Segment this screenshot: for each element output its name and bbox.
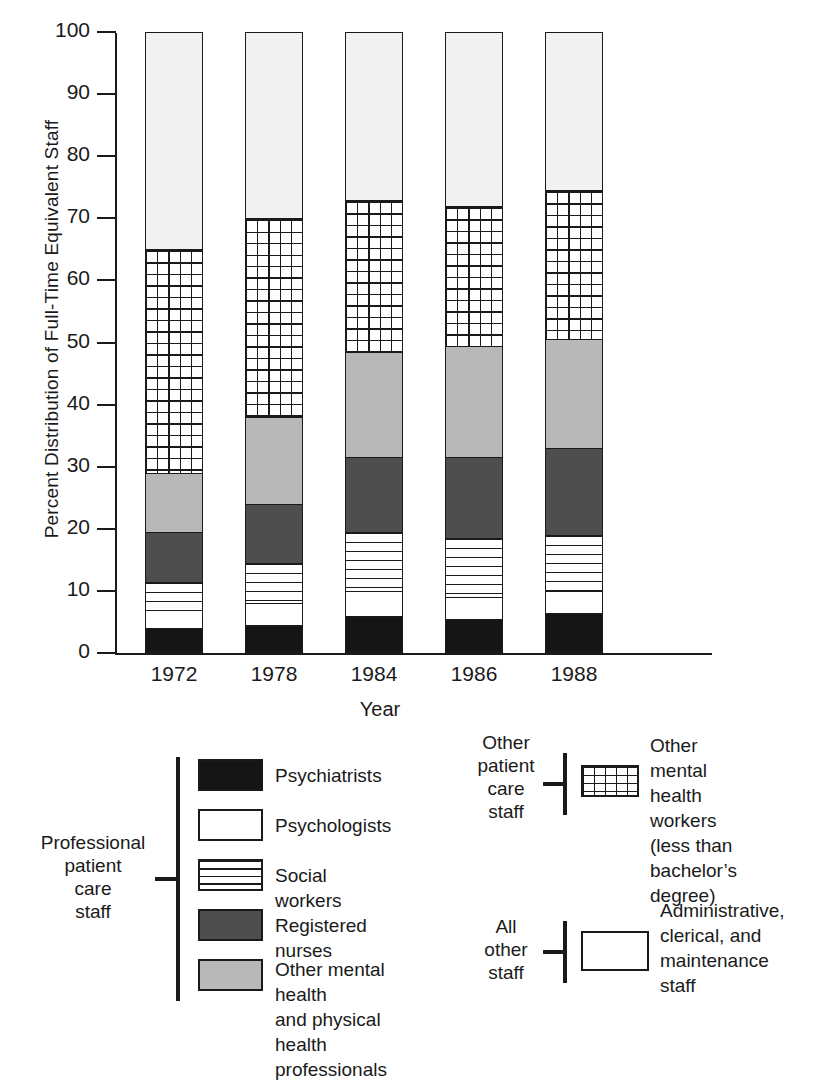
- y-axis-tick-label-60: 60: [30, 266, 90, 290]
- x-axis-line: [115, 653, 712, 655]
- legend-label-line-2: clerical, and: [660, 923, 785, 948]
- bar-segment-1972-psychologists: [145, 610, 203, 629]
- legend-group-label-other-patient: Other patient care staff: [470, 731, 542, 823]
- bar-segment-1984-admin: [345, 32, 403, 200]
- brace-stem-other-patient: [543, 782, 566, 786]
- y-axis-tick-70: [97, 217, 116, 219]
- legend-label-line-2: and physical health: [275, 1007, 387, 1057]
- y-axis-tick-50: [97, 342, 116, 344]
- bar-segment-1978-admin: [245, 32, 303, 218]
- bar-segment-1972-grid: [145, 249, 203, 473]
- bar-segment-1978-psychologists: [245, 603, 303, 625]
- legend-area: Professional patient care staff Psychiat…: [0, 735, 821, 1035]
- y-axis-tick-label-90: 90: [30, 80, 90, 104]
- legend-label-line-1: Other mental: [650, 733, 737, 783]
- y-axis-tick-90: [97, 93, 116, 95]
- bar-segment-1978-psychiatrists: [245, 625, 303, 653]
- legend-swatch-psychologists: [198, 809, 263, 841]
- bar-segment-1986-admin: [445, 32, 503, 206]
- legend-swatch-psychiatrists: [198, 759, 263, 791]
- bar-1972: [145, 0, 203, 660]
- y-axis-tick-0: [97, 652, 116, 654]
- legend-label-administrative-staff: Administrative, clerical, and maintenanc…: [660, 898, 785, 998]
- y-axis-tick-label-50: 50: [30, 329, 90, 353]
- bar-segment-1986-othermh: [445, 346, 503, 458]
- group-label-line-1: All: [470, 915, 542, 938]
- legend-label-social-workers: Social workers: [275, 863, 342, 913]
- y-axis-tick-10: [97, 590, 116, 592]
- bar-segment-1984-othermh: [345, 352, 403, 458]
- legend-label-psychiatrists: Psychiatrists: [275, 763, 382, 788]
- bar-segment-1986-grid: [445, 206, 503, 346]
- legend-label-line-1: Other mental health: [275, 957, 387, 1007]
- group-label-line-3: care: [30, 877, 156, 900]
- group-label-line-3: staff: [470, 961, 542, 984]
- brace-stem-all-other: [543, 950, 566, 954]
- y-axis-tick-label-0: 0: [30, 639, 90, 663]
- bar-segment-1972-social: [145, 582, 203, 610]
- legend-group-label-professional: Professional patient care staff: [30, 831, 156, 923]
- group-label-line-4: staff: [30, 900, 156, 923]
- bar-segment-1972-psychiatrists: [145, 628, 203, 653]
- legend-label-psychologists: Psychologists: [275, 813, 391, 838]
- legend-swatch-administrative-staff: [581, 931, 649, 971]
- x-axis-tick-label-1988: 1988: [514, 662, 634, 686]
- bar-segment-1984-psychologists: [345, 591, 403, 616]
- y-axis-tick-100: [97, 31, 116, 33]
- bar-segment-1988-psychiatrists: [545, 613, 603, 653]
- bar-segment-1988-nurses: [545, 448, 603, 535]
- bar-segment-1988-othermh: [545, 339, 603, 448]
- legend-swatch-other-mental-health-workers: [581, 765, 639, 797]
- legend-swatch-social-workers: [198, 859, 263, 891]
- bar-segment-1972-othermh: [145, 473, 203, 532]
- legend-label-line-3: professionals: [275, 1057, 387, 1082]
- bar-segment-1978-othermh: [245, 417, 303, 504]
- bar-1978: [245, 0, 303, 660]
- bar-segment-1988-admin: [545, 32, 603, 190]
- group-label-line-2: patient: [30, 854, 156, 877]
- legend-label-line-2: health workers: [650, 783, 737, 833]
- y-axis-tick-label-30: 30: [30, 453, 90, 477]
- legend-label-line-3: maintenance: [660, 948, 785, 973]
- legend-label-registered-nurses: Registered nurses: [275, 913, 367, 963]
- y-axis-tick-label-20: 20: [30, 515, 90, 539]
- legend-label-line-3: (less than bachelor’s: [650, 833, 737, 883]
- y-axis-tick-label-80: 80: [30, 142, 90, 166]
- bar-segment-1988-grid: [545, 190, 603, 339]
- y-axis-tick-40: [97, 404, 116, 406]
- group-label-line-1: Professional: [30, 831, 156, 854]
- brace-professional: [176, 757, 198, 1001]
- bar-segment-1986-psychologists: [445, 597, 503, 619]
- bar-segment-1984-grid: [345, 200, 403, 352]
- legend-label-line-4: staff: [660, 973, 785, 998]
- bar-segment-1986-psychiatrists: [445, 619, 503, 653]
- bar-segment-1972-admin: [145, 32, 203, 249]
- y-axis-tick-20: [97, 528, 116, 530]
- group-label-line-2: patient: [470, 754, 542, 777]
- y-axis-tick-label-10: 10: [30, 577, 90, 601]
- y-axis-tick-label-70: 70: [30, 204, 90, 228]
- bar-segment-1984-nurses: [345, 457, 403, 532]
- legend-group-label-all-other: All other staff: [470, 915, 542, 984]
- bar-1984: [345, 0, 403, 660]
- chart-plot-area: Percent Distribution of Full-Time Equiva…: [0, 0, 821, 740]
- bar-segment-1978-social: [245, 563, 303, 603]
- bar-segment-1984-social: [345, 532, 403, 591]
- legend-label-line-1: Administrative,: [660, 898, 785, 923]
- legend-label-other-mental-health-workers: Other mental health workers (less than b…: [650, 733, 737, 908]
- bar-1988: [545, 0, 603, 660]
- group-label-line-4: staff: [470, 800, 542, 823]
- bar-segment-1988-psychologists: [545, 591, 603, 613]
- bar-segment-1988-social: [545, 535, 603, 591]
- legend-swatch-registered-nurses: [198, 909, 263, 941]
- group-label-line-1: Other: [470, 731, 542, 754]
- bar-segment-1986-social: [445, 538, 503, 597]
- bar-segment-1984-psychiatrists: [345, 616, 403, 653]
- x-axis-title: Year: [0, 698, 760, 721]
- y-axis-tick-label-100: 100: [30, 18, 90, 42]
- group-label-line-3: care: [470, 777, 542, 800]
- bar-segment-1986-nurses: [445, 457, 503, 538]
- bar-segment-1978-grid: [245, 218, 303, 417]
- bar-1986: [445, 0, 503, 660]
- y-axis-tick-80: [97, 155, 116, 157]
